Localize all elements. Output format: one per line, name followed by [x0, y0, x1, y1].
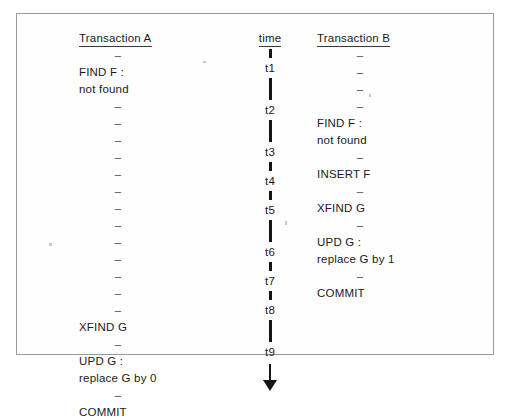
time-axis: t1t2t3t4t5t6t7t8t9	[239, 49, 301, 391]
filler-dash: –	[317, 183, 403, 200]
time-column: time t1t2t3t4t5t6t7t8t9	[239, 14, 301, 391]
filler-dash: –	[79, 166, 157, 183]
time-axis-segment	[269, 220, 272, 242]
scan-speck	[285, 221, 287, 225]
filler-dash: –	[317, 217, 403, 234]
operation-line: replace G by 0	[79, 370, 229, 387]
filler-dash: –	[317, 268, 403, 285]
operation-line: XFIND G	[79, 319, 229, 336]
time-axis-segment	[269, 120, 272, 142]
filler-dash: –	[317, 47, 403, 64]
time-tick-t9: t9	[239, 344, 301, 360]
time-arrow-head	[263, 380, 277, 391]
filler-dash: –	[79, 387, 157, 404]
filler-dash: –	[79, 302, 157, 319]
time-arrow-icon	[263, 364, 277, 391]
transaction-a-rows: –FIND F :not found–––––––––––––XFIND G–U…	[79, 47, 229, 420]
time-tick-t4: t4	[239, 173, 301, 189]
time-tick-t6: t6	[239, 244, 301, 260]
time-axis-segment	[269, 291, 272, 300]
scan-speck	[49, 243, 52, 246]
operation-line: COMMIT	[79, 404, 229, 420]
filler-dash: –	[79, 251, 157, 268]
time-tick-t7: t7	[239, 273, 301, 289]
time-axis-segment	[269, 191, 272, 200]
scan-speck	[203, 61, 206, 63]
transaction-b-rows: ––––FIND F :not found–INSERT F–XFIND G–U…	[317, 47, 467, 302]
filler-dash: –	[79, 285, 157, 302]
time-axis-segment	[269, 49, 272, 58]
filler-dash: –	[317, 98, 403, 115]
filler-dash: –	[79, 336, 157, 353]
filler-dash: –	[79, 47, 157, 64]
transaction-b-header: Transaction B	[317, 32, 390, 47]
filler-dash: –	[317, 149, 403, 166]
filler-dash: –	[79, 217, 157, 234]
transaction-a-column: Transaction A –FIND F :not found––––––––…	[79, 14, 229, 420]
time-axis-segment	[269, 262, 272, 271]
time-tick-t8: t8	[239, 302, 301, 318]
operation-line: XFIND G	[317, 200, 467, 217]
operation-line: not found	[79, 81, 229, 98]
operation-line: UPD G :	[317, 234, 467, 251]
operation-line: UPD G :	[79, 353, 229, 370]
time-header: time	[259, 32, 282, 47]
filler-dash: –	[79, 183, 157, 200]
filler-dash: –	[79, 115, 157, 132]
operation-line: COMMIT	[317, 285, 467, 302]
filler-dash: –	[317, 81, 403, 98]
time-axis-segment	[269, 320, 272, 342]
time-tick-t5: t5	[239, 202, 301, 218]
time-tick-t1: t1	[239, 60, 301, 76]
filler-dash: –	[79, 98, 157, 115]
time-tick-t2: t2	[239, 102, 301, 118]
filler-dash: –	[79, 132, 157, 149]
figure-body: Transaction A –FIND F :not found––––––––…	[17, 14, 493, 354]
figure-frame: Transaction A –FIND F :not found––––––––…	[16, 13, 494, 355]
operation-line: INSERT F	[317, 166, 467, 183]
operation-line: not found	[317, 132, 467, 149]
time-axis-segment	[269, 162, 272, 171]
filler-dash: –	[79, 234, 157, 251]
scan-speck	[369, 94, 371, 97]
filler-dash: –	[79, 268, 157, 285]
operation-line: FIND F :	[79, 64, 229, 81]
transaction-b-column: Transaction B ––––FIND F :not found–INSE…	[317, 14, 467, 302]
filler-dash: –	[317, 64, 403, 81]
time-axis-segment	[269, 78, 272, 100]
operation-line: FIND F :	[317, 115, 467, 132]
filler-dash: –	[79, 149, 157, 166]
filler-dash: –	[79, 200, 157, 217]
time-arrow-stem	[269, 364, 271, 380]
transaction-a-header: Transaction A	[79, 32, 152, 47]
operation-line: replace G by 1	[317, 251, 467, 268]
time-tick-t3: t3	[239, 144, 301, 160]
